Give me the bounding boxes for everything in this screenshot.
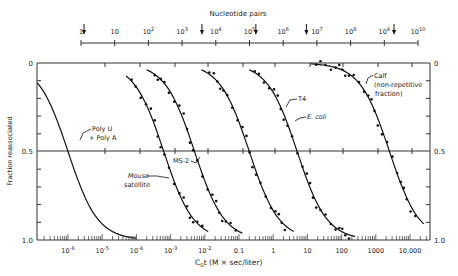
data-point xyxy=(344,74,347,77)
data-point xyxy=(348,74,351,77)
label-ecoli: E. coli xyxy=(307,113,327,121)
data-point xyxy=(358,81,361,84)
y-tick-left-1: 1.0 xyxy=(22,237,33,245)
data-point xyxy=(206,188,209,191)
x-tick-label: 10-5 xyxy=(96,245,109,255)
data-point xyxy=(253,70,256,73)
top-tick-label: 104 xyxy=(210,26,221,36)
arrow-down-icon xyxy=(304,30,308,35)
data-point xyxy=(182,196,185,199)
x-tick-label: 10-4 xyxy=(130,245,143,255)
top-tick-label: 105 xyxy=(244,26,255,36)
data-point xyxy=(139,97,142,100)
top-tick-label: 1010 xyxy=(411,26,426,36)
data-point xyxy=(319,209,322,212)
arrow-down-icon xyxy=(392,30,396,35)
label-t4: T4 xyxy=(297,95,306,103)
data-point xyxy=(189,216,192,219)
data-point xyxy=(315,206,318,209)
data-point xyxy=(348,237,351,240)
data-point xyxy=(263,81,266,84)
data-point xyxy=(173,183,176,186)
top-axis-title: Nucleotide pairs xyxy=(210,10,267,18)
data-point xyxy=(153,119,156,122)
data-point xyxy=(341,68,344,71)
data-point xyxy=(221,220,224,223)
data-point xyxy=(282,118,285,121)
data-point xyxy=(226,94,229,97)
data-point xyxy=(213,72,216,75)
data-point xyxy=(173,100,176,103)
data-point xyxy=(315,63,318,66)
data-point xyxy=(201,225,204,228)
data-point xyxy=(150,107,153,110)
data-point xyxy=(178,192,181,195)
data-point xyxy=(273,88,276,91)
data-point xyxy=(192,149,195,152)
x-tick-label: 100 xyxy=(335,247,347,255)
label-satellite: satellite xyxy=(124,181,150,189)
series-labels: Poly U + Poly A Mouse satellite MS-2 T4 … xyxy=(80,72,422,189)
curve-0 xyxy=(37,83,136,238)
plot-frame xyxy=(37,63,430,240)
data-point xyxy=(386,141,389,144)
data-point xyxy=(168,166,171,169)
label-poly-u: Poly U xyxy=(92,125,112,133)
data-point xyxy=(291,135,294,138)
data-point xyxy=(196,220,199,223)
data-point xyxy=(245,135,248,138)
data-point xyxy=(259,181,262,184)
data-point xyxy=(222,89,225,92)
top-tick-label: 1 xyxy=(79,28,83,36)
top-tick-label: 102 xyxy=(143,26,154,36)
data-point xyxy=(211,194,214,197)
data-point xyxy=(330,223,333,226)
data-point xyxy=(189,141,192,144)
data-point xyxy=(276,94,279,97)
data-point xyxy=(258,72,261,75)
data-point xyxy=(264,195,267,198)
data-point xyxy=(400,181,403,184)
data-point xyxy=(216,80,219,83)
data-point xyxy=(130,78,133,81)
top-tick-label: 106 xyxy=(277,26,288,36)
x-tick-label: 0.1 xyxy=(234,247,244,255)
data-point xyxy=(324,213,327,216)
data-point xyxy=(255,173,258,176)
frame-ticks xyxy=(37,63,430,222)
data-point xyxy=(201,175,204,178)
data-point xyxy=(208,71,211,74)
data-point xyxy=(163,153,166,156)
data-point xyxy=(352,74,355,77)
data-point xyxy=(229,222,232,225)
data-point xyxy=(145,103,148,106)
x-tick-label: 10,000 xyxy=(399,247,422,255)
data-point xyxy=(284,229,287,232)
label-calf-3: fraction) xyxy=(375,90,403,98)
data-point xyxy=(235,229,238,232)
data-point xyxy=(186,128,189,131)
data-point xyxy=(268,87,271,90)
y-tick-right-1: 1.0 xyxy=(434,237,445,245)
y-tick-left-0: 0 xyxy=(29,60,33,68)
data-point xyxy=(381,133,384,136)
data-point xyxy=(153,74,156,77)
data-point xyxy=(309,182,312,185)
data-point xyxy=(156,135,159,138)
data-point xyxy=(414,215,417,218)
top-tick-label: 103 xyxy=(176,26,187,36)
data-point xyxy=(405,198,408,201)
arrow-down-icon xyxy=(200,30,204,35)
data-point xyxy=(280,222,283,225)
arrow-down-icon xyxy=(254,30,258,35)
data-point xyxy=(279,108,282,111)
data-point xyxy=(248,151,251,154)
data-point xyxy=(319,60,322,63)
x-axis-title: C0t (M × sec/liter) xyxy=(195,258,263,268)
data-point xyxy=(159,146,162,149)
data-point xyxy=(363,90,366,93)
data-point xyxy=(402,187,405,190)
data-point xyxy=(182,112,185,115)
data-point xyxy=(134,85,137,88)
data-point xyxy=(159,78,162,81)
